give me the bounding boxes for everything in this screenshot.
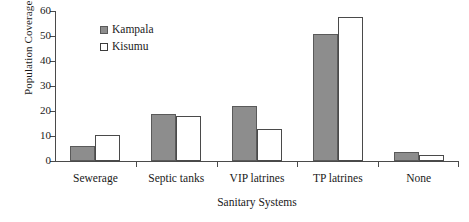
x-axis-label-none: None <box>378 172 459 184</box>
bar-kisumu-none <box>419 155 444 161</box>
legend-item-kisumu: Kisumu <box>100 38 190 55</box>
x-axis-label-tp-latrines: TP latrines <box>297 172 378 184</box>
legend-item-kampala: Kampala <box>100 21 190 38</box>
bar-kampala-none <box>394 152 419 161</box>
y-axis-tick-label: 50 <box>40 29 51 41</box>
x-axis-label-vip-latrines: VIP latrines <box>217 172 298 184</box>
bar-kampala-tp-latrines <box>313 34 338 162</box>
bar-kisumu-vip-latrines <box>257 129 282 162</box>
y-axis-title: Population Coverage (%) <box>22 0 34 118</box>
chart-figure: Population Coverage (%) 0102030405060 Se… <box>0 0 469 222</box>
y-axis-tick-label: 60 <box>40 4 51 16</box>
x-axis-tick-mark <box>136 162 137 167</box>
y-axis-tick-label: 40 <box>40 54 51 66</box>
y-axis-tick-label: 20 <box>40 104 51 116</box>
bar-kampala-vip-latrines <box>232 106 257 161</box>
bar-kisumu-tp-latrines <box>338 17 363 161</box>
x-axis-tick-mark <box>297 162 298 167</box>
y-axis-tick-label: 0 <box>46 154 52 166</box>
x-axis-tick-mark <box>217 162 218 167</box>
bar-kampala-septic-tanks <box>151 114 176 162</box>
legend-label-kampala: Kampala <box>112 23 154 36</box>
x-axis-title: Sanitary Systems <box>55 196 459 208</box>
bar-kisumu-septic-tanks <box>176 116 201 161</box>
x-axis-label-septic-tanks: Septic tanks <box>136 172 217 184</box>
legend-label-kisumu: Kisumu <box>112 40 148 53</box>
bar-kisumu-sewerage <box>95 135 120 161</box>
x-axis-tick-mark <box>458 162 459 167</box>
x-axis-tick-mark <box>378 162 379 167</box>
y-axis-tick-label: 10 <box>40 129 51 141</box>
legend-swatch-icon-kisumu <box>100 43 108 51</box>
x-axis-label-sewerage: Sewerage <box>55 172 136 184</box>
y-axis-tick-label: 30 <box>40 79 51 91</box>
bar-kampala-sewerage <box>70 146 95 161</box>
chart-legend: Kampala Kisumu <box>100 21 190 55</box>
legend-swatch-icon-kampala <box>100 26 108 34</box>
x-axis-line <box>55 161 459 162</box>
